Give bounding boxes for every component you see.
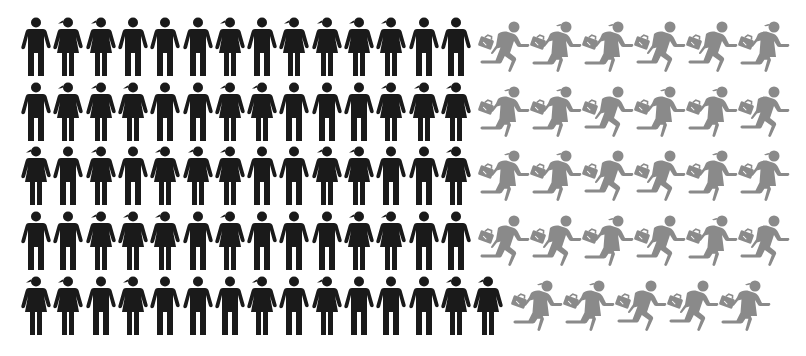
person-standing-female-icon [376, 17, 406, 77]
person-running-briefcase-male-icon [684, 21, 738, 73]
person-running-briefcase-female-icon [684, 150, 738, 202]
person-running-briefcase-male-icon [476, 215, 530, 267]
person-standing-female-icon [312, 276, 342, 336]
person-standing-female-icon [21, 276, 51, 336]
person-standing-male-icon [312, 211, 342, 271]
pictogram-row [0, 82, 806, 144]
person-standing-female-icon [215, 146, 245, 206]
person-standing-male-icon [279, 211, 309, 271]
person-standing-male-icon [376, 276, 406, 336]
person-standing-female-icon [53, 17, 83, 77]
person-standing-male-icon [409, 146, 439, 206]
person-running-briefcase-female-icon [509, 280, 563, 332]
person-standing-female-icon [183, 146, 213, 206]
person-running-briefcase-female-icon [561, 280, 615, 332]
person-standing-male-icon [279, 276, 309, 336]
person-standing-female-icon [312, 17, 342, 77]
pictogram-row [0, 146, 806, 208]
person-running-briefcase-male-icon [736, 86, 790, 138]
person-standing-male-icon [183, 276, 213, 336]
person-standing-male-icon [53, 146, 83, 206]
person-standing-female-icon [344, 17, 374, 77]
person-standing-male-icon [150, 82, 180, 142]
person-standing-male-icon [86, 276, 116, 336]
person-running-briefcase-female-icon [476, 150, 530, 202]
person-running-briefcase-male-icon [528, 215, 582, 267]
person-standing-female-icon [86, 211, 116, 271]
person-standing-female-icon [53, 82, 83, 142]
person-standing-female-icon [376, 82, 406, 142]
person-standing-male-icon [118, 17, 148, 77]
person-standing-male-icon [376, 146, 406, 206]
pictogram-row [0, 17, 806, 79]
person-standing-female-icon [118, 82, 148, 142]
person-standing-male-icon [183, 82, 213, 142]
person-running-briefcase-female-icon [736, 150, 790, 202]
person-running-briefcase-male-icon [580, 86, 634, 138]
person-standing-female-icon [118, 276, 148, 336]
person-standing-male-icon [441, 17, 471, 77]
person-standing-female-icon [215, 17, 245, 77]
person-standing-male-icon [21, 211, 51, 271]
pictogram-row [0, 276, 806, 338]
person-standing-female-icon [53, 276, 83, 336]
person-running-briefcase-female-icon [528, 150, 582, 202]
person-standing-female-icon [344, 146, 374, 206]
person-running-briefcase-male-icon [476, 21, 530, 73]
person-running-briefcase-male-icon [613, 280, 667, 332]
person-standing-female-icon [473, 276, 503, 336]
person-standing-male-icon [183, 211, 213, 271]
person-standing-female-icon [441, 82, 471, 142]
person-standing-male-icon [279, 82, 309, 142]
person-running-briefcase-female-icon [717, 280, 771, 332]
person-standing-female-icon [376, 211, 406, 271]
person-standing-female-icon [247, 82, 277, 142]
person-running-briefcase-female-icon [632, 86, 686, 138]
person-standing-female-icon [441, 276, 471, 336]
person-standing-male-icon [247, 211, 277, 271]
person-running-briefcase-female-icon [684, 215, 738, 267]
person-standing-female-icon [344, 211, 374, 271]
person-standing-male-icon [215, 276, 245, 336]
person-standing-male-icon [150, 276, 180, 336]
pictogram-row [0, 211, 806, 273]
person-standing-female-icon [21, 146, 51, 206]
person-standing-female-icon [279, 17, 309, 77]
person-standing-female-icon [409, 82, 439, 142]
person-running-briefcase-female-icon [476, 86, 530, 138]
person-standing-male-icon [53, 211, 83, 271]
person-standing-male-icon [21, 17, 51, 77]
person-standing-male-icon [409, 211, 439, 271]
person-standing-male-icon [312, 82, 342, 142]
person-standing-male-icon [247, 146, 277, 206]
person-standing-male-icon [118, 146, 148, 206]
person-running-briefcase-male-icon [580, 150, 634, 202]
person-running-briefcase-male-icon [632, 21, 686, 73]
person-standing-male-icon [409, 276, 439, 336]
person-standing-female-icon [86, 82, 116, 142]
person-standing-male-icon [247, 17, 277, 77]
person-running-briefcase-female-icon [736, 21, 790, 73]
person-standing-female-icon [86, 17, 116, 77]
person-standing-male-icon [183, 17, 213, 77]
person-running-briefcase-male-icon [632, 215, 686, 267]
person-standing-female-icon [150, 146, 180, 206]
person-running-briefcase-male-icon [665, 280, 719, 332]
person-running-briefcase-female-icon [528, 21, 582, 73]
person-standing-female-icon [86, 146, 116, 206]
person-standing-male-icon [344, 276, 374, 336]
person-running-briefcase-female-icon [684, 86, 738, 138]
person-standing-female-icon [247, 276, 277, 336]
person-running-briefcase-female-icon [528, 86, 582, 138]
person-standing-male-icon [150, 17, 180, 77]
person-standing-male-icon [344, 82, 374, 142]
person-running-briefcase-female-icon [580, 215, 634, 267]
person-standing-female-icon [312, 146, 342, 206]
person-running-briefcase-male-icon [736, 215, 790, 267]
person-standing-male-icon [279, 146, 309, 206]
person-standing-female-icon [118, 211, 148, 271]
person-standing-male-icon [21, 82, 51, 142]
person-running-briefcase-male-icon [632, 150, 686, 202]
person-standing-female-icon [215, 211, 245, 271]
person-running-briefcase-female-icon [580, 21, 634, 73]
